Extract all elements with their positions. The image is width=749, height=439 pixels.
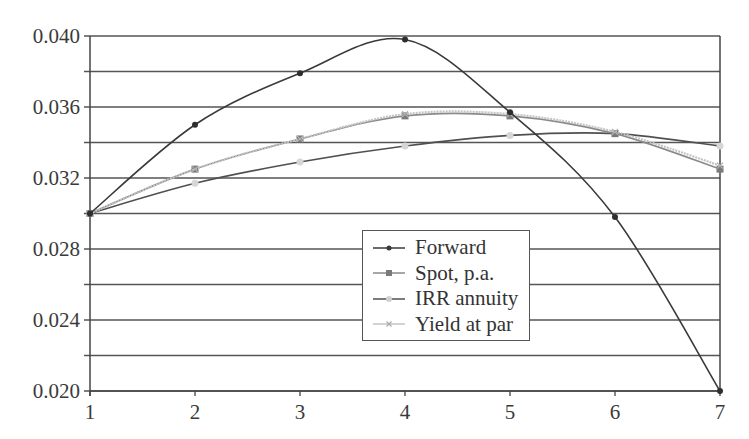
legend-label: Spot, p.a. bbox=[415, 263, 494, 284]
data-point bbox=[717, 143, 724, 150]
series-spot-p-a bbox=[87, 112, 724, 217]
legend-label: IRR annuity bbox=[415, 288, 518, 309]
y-tick-label: 0.040 bbox=[33, 24, 80, 48]
data-point bbox=[507, 109, 513, 115]
legend-marker-square-icon bbox=[371, 266, 407, 280]
legend-marker-x-icon bbox=[371, 317, 407, 331]
x-tick-label: 5 bbox=[505, 400, 516, 424]
chart-legend: Forward Spot, p.a. IRR annuity Yield at … bbox=[362, 230, 530, 341]
y-tick-label: 0.020 bbox=[33, 379, 80, 403]
data-point bbox=[612, 214, 618, 220]
data-point bbox=[402, 143, 409, 150]
x-tick-label: 2 bbox=[190, 400, 201, 424]
data-point bbox=[87, 211, 93, 217]
data-point bbox=[192, 122, 198, 128]
data-point bbox=[402, 37, 408, 43]
x-tick-label: 6 bbox=[610, 400, 621, 424]
x-tick-label: 4 bbox=[400, 400, 411, 424]
x-tick-label: 3 bbox=[295, 400, 306, 424]
y-tick-label: 0.032 bbox=[33, 166, 80, 190]
x-axis-tick-labels: 1234567 bbox=[85, 400, 726, 424]
data-point bbox=[717, 166, 724, 173]
data-point bbox=[297, 159, 304, 166]
x-tick-label: 1 bbox=[85, 400, 96, 424]
legend-marker-diamond-icon bbox=[371, 241, 407, 255]
axes bbox=[90, 36, 720, 396]
data-point bbox=[297, 70, 303, 76]
line-chart: 0.0200.0240.0280.0320.0360.040 1234567 bbox=[0, 0, 749, 439]
y-tick-label: 0.036 bbox=[33, 95, 80, 119]
x-tick-label: 7 bbox=[715, 400, 726, 424]
legend-item-spot: Spot, p.a. bbox=[371, 261, 529, 287]
legend-item-forward: Forward bbox=[371, 235, 529, 261]
y-axis-tick-labels: 0.0200.0240.0280.0320.0360.040 bbox=[33, 24, 81, 403]
legend-marker-circle-icon bbox=[371, 292, 407, 306]
y-tick-label: 0.028 bbox=[33, 237, 80, 261]
legend-label: Forward bbox=[415, 237, 486, 258]
legend-item-irr-annuity: IRR annuity bbox=[371, 286, 529, 312]
y-tick-label: 0.024 bbox=[33, 308, 81, 332]
series-yield-at-par bbox=[87, 111, 723, 216]
legend-label: Yield at par bbox=[415, 314, 513, 335]
data-point bbox=[192, 180, 199, 187]
data-point bbox=[717, 388, 723, 394]
legend-item-yield-at-par: Yield at par bbox=[371, 312, 529, 338]
data-point bbox=[507, 132, 514, 139]
